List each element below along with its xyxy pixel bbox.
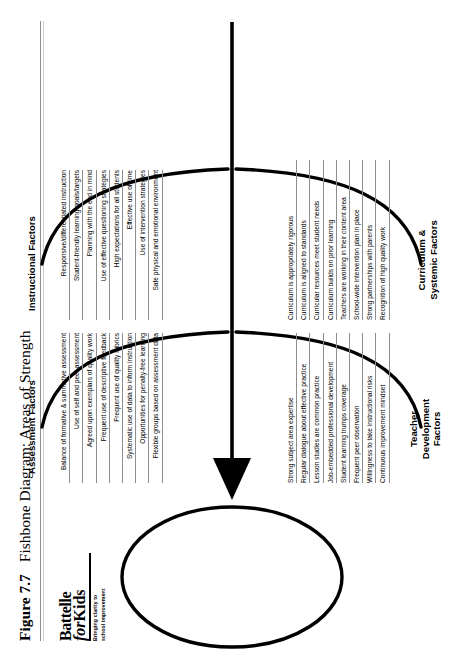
bone-item: Flexible groups based on assessment data xyxy=(152,333,162,483)
bone-item: Student learning trumps coverage xyxy=(340,333,350,483)
bone-item: Continuous improvement mindset xyxy=(379,333,389,483)
bone-item: Student-friendly learning goals/targets xyxy=(73,170,83,320)
bone-item: Curriculum is aligned to standards xyxy=(300,160,310,320)
bone-item: School-wide intervention plan in place xyxy=(353,160,363,320)
bone-label-assessment-factors: Assessment Factors xyxy=(26,380,38,474)
bone-label-line-2: Development xyxy=(420,363,432,495)
bone-item: Strong subject area expertise xyxy=(287,333,297,483)
bone-item: High expectations for all students xyxy=(113,170,123,320)
bone-item: Safe physical and emotional environment xyxy=(152,170,162,320)
bone-item: Balance of formative & summative assessm… xyxy=(60,333,70,483)
bone-item: Recognition of high quality work xyxy=(379,160,389,320)
bone-item: Frequent use of descriptive feedback xyxy=(100,333,110,483)
bone-item: Curriculum builds on prior learning xyxy=(327,160,337,320)
bone-item: Teachers are working in their content ar… xyxy=(340,160,350,320)
bone-item: Curricular resources meet student needs xyxy=(313,160,323,320)
bone-item: Willingness to take instructional risks xyxy=(366,333,376,483)
bone-item: Use of effective questioning strategies xyxy=(100,170,110,320)
bone-label-instructional-factors: Instructional Factors xyxy=(26,216,38,311)
bone-items-assessment-factors: Balance of formative & summative assessm… xyxy=(60,333,166,483)
bone-item: Frequent peer observation xyxy=(353,333,363,483)
bone-item: Planning with the end in mind xyxy=(86,170,96,320)
bone-label-curriculum-systemic-factors: Curriculum & Systemic Factors xyxy=(416,185,439,335)
bone-item: Opportunities for penalty-free learning xyxy=(139,333,149,483)
figure-page: Figure 7.7Fishbone Diagram: Areas of Str… xyxy=(0,0,463,663)
fishbone-head-ellipse xyxy=(122,507,342,647)
bone-label-line-1: Curriculum & xyxy=(416,185,428,335)
bone-item: Curriculum is appropriately rigorous xyxy=(287,160,297,320)
bone-items-teacher-development-factors: Strong subject area expertise Regular di… xyxy=(287,333,393,483)
bone-item: Job-embedded professional development xyxy=(327,333,337,483)
bone-item: Lesson studies are common practice xyxy=(313,333,323,483)
bone-item: Effective use of time xyxy=(126,170,136,320)
bone-items-instructional-factors: Responsive/differentiated instruction St… xyxy=(60,170,166,320)
fishbone-arrowhead xyxy=(213,458,251,500)
page-canvas: Figure 7.7Fishbone Diagram: Areas of Str… xyxy=(0,0,463,663)
bone-item: Use of self and peer assessment xyxy=(73,333,83,483)
bone-item: Frequent use of quality rubrics xyxy=(113,333,123,483)
fishbone-lines xyxy=(0,0,463,663)
fishbone-diagram: Balance of formative & summative assessm… xyxy=(0,0,463,663)
bone-label-line-3: Factors xyxy=(431,363,443,495)
bone-item: Systematic use of data to inform instruc… xyxy=(126,333,136,483)
bone-label-teacher-development-factors: Teacher Development Factors xyxy=(408,363,443,495)
bone-label-line-2: Systemic Factors xyxy=(428,185,440,335)
bone-item: Agreed upon exemplars of quality work xyxy=(86,333,96,483)
bone-label-line-1: Teacher xyxy=(408,363,420,495)
bone-item: Strong partnerships with parents xyxy=(366,160,376,320)
bone-items-curriculum-systemic-factors: Curriculum is appropriately rigorous Cur… xyxy=(287,160,393,320)
bone-item: Use of intervention strategies xyxy=(139,170,149,320)
bone-item: Regular dialogue about effective practic… xyxy=(300,333,310,483)
bone-item: Responsive/differentiated instruction xyxy=(60,170,70,320)
